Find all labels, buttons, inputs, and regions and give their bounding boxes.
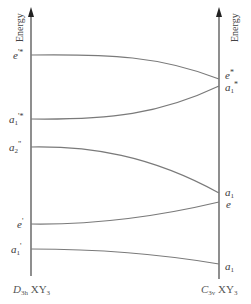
- left-axis-arrow-icon: [28, 7, 34, 17]
- diagram-canvas: [0, 0, 251, 304]
- label-e: e: [226, 199, 231, 210]
- label-e-prime: e': [17, 218, 23, 230]
- label-e-star: e*: [225, 69, 234, 81]
- left-axis-title: Energy: [14, 13, 25, 42]
- correlation-line-a1-star: [31, 86, 219, 119]
- label-a1-star: a1*: [225, 81, 238, 95]
- label-a1-prime: a1': [11, 243, 21, 257]
- correlation-diagram: Energy Energy e'* a1'* a2" e' a1' e* a1*…: [0, 0, 251, 304]
- label-e-prime-star: e'*: [13, 49, 23, 61]
- correlation-line-a2-a1: [31, 147, 219, 193]
- right-axis-title: Energy: [229, 13, 240, 42]
- label-a1-prime-star: a1'*: [9, 113, 23, 127]
- right-point-group-label: C3v XY3: [201, 283, 237, 297]
- correlation-line-a1: [31, 249, 219, 264]
- label-a2-double-prime: a2": [9, 141, 21, 155]
- label-a1-lower: a1: [225, 261, 234, 274]
- correlation-line-e-star: [31, 55, 219, 79]
- correlation-line-e: [31, 202, 219, 224]
- left-point-group-label: D3h XY3: [13, 283, 50, 297]
- right-axis-arrow-icon: [216, 7, 222, 17]
